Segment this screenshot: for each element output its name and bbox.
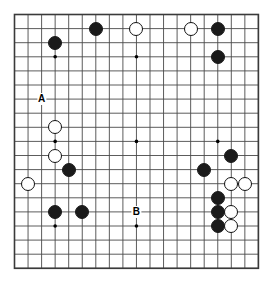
go-stone-white [184, 22, 198, 36]
go-stone-black [62, 163, 76, 177]
star-point [216, 140, 220, 144]
go-stone-white [129, 22, 143, 36]
go-stone-white [224, 177, 238, 191]
go-stone-black [211, 205, 225, 219]
star-point [53, 55, 57, 59]
star-point [53, 224, 57, 228]
go-stone-black [48, 205, 62, 219]
go-stone-black [211, 219, 225, 233]
star-point [53, 140, 57, 144]
go-stone-black [89, 22, 103, 36]
star-point [135, 55, 139, 59]
go-stone-white [21, 177, 35, 191]
star-point [135, 224, 139, 228]
go-stone-black [211, 191, 225, 205]
go-board-grid [0, 0, 271, 283]
go-stone-black [224, 149, 238, 163]
go-board-diagram: AB [0, 0, 271, 283]
board-label-a: A [37, 93, 46, 105]
go-stone-black [197, 163, 211, 177]
go-stone-white [48, 149, 62, 163]
board-label-b: B [132, 206, 141, 218]
go-stone-black [48, 36, 62, 50]
go-stone-black [211, 22, 225, 36]
star-point [135, 140, 139, 144]
go-stone-black [211, 50, 225, 64]
go-stone-white [238, 177, 252, 191]
